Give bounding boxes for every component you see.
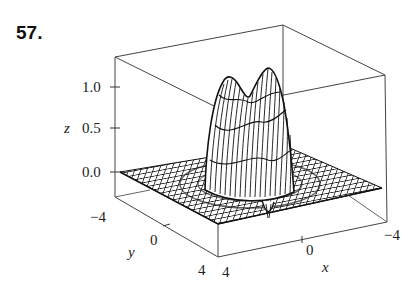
z-axis-label: z xyxy=(63,120,70,136)
x-tick-4: 4 xyxy=(222,264,230,280)
y-tick-0: 0 xyxy=(150,232,158,248)
x-tick-neg4: −4 xyxy=(384,227,400,243)
y-tick-neg4: −4 xyxy=(90,209,106,225)
y-axis-label: y xyxy=(126,244,135,260)
y-tick-4: 4 xyxy=(198,262,206,278)
z-tick-0.5: 0.5 xyxy=(82,120,101,136)
x-tick-0: 0 xyxy=(306,242,314,258)
z-tick-1.0: 1.0 xyxy=(82,79,101,95)
surface-mesh xyxy=(120,68,382,224)
x-axis-label: x xyxy=(321,259,329,275)
z-tick-0.0: 0.0 xyxy=(82,164,101,180)
surface-plot: 1.0 0.5 0.0 z −4 0 4 y 4 0 −4 x xyxy=(0,0,412,289)
